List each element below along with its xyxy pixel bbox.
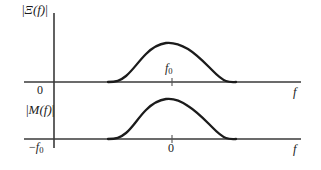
negf0-sign: − (29, 140, 36, 154)
lowpass-spectrum-curve (108, 99, 236, 139)
figure-container: |Ξ(f)| 0 |M(f)| −f0 f0 0 f f (0, 0, 321, 170)
spectra-figure-svg (0, 0, 321, 170)
bottom-plot-y-axis-label: |M(f)| (26, 103, 54, 116)
f0-subscript: 0 (168, 66, 172, 76)
top-plot-x-axis-label: f (293, 86, 296, 99)
bottom-plot-x-axis-label: f (293, 143, 296, 156)
top-plot-center-tick-label: f0 (165, 62, 173, 76)
negf0-subscript: 0 (39, 145, 43, 155)
bottom-plot-origin-label: 0 (168, 142, 174, 154)
bottom-plot-left-edge-label: −f0 (29, 141, 43, 155)
top-plot-origin-label: 0 (37, 84, 43, 96)
top-plot-y-axis-label: |Ξ(f)| (22, 3, 48, 16)
